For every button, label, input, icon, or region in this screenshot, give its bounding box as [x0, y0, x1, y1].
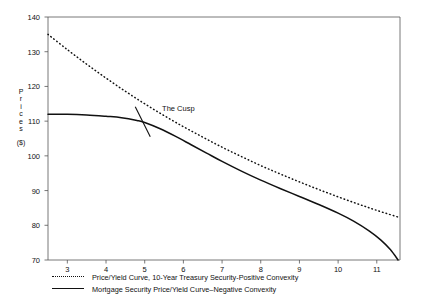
legend-item-treasury: Price/Yield Curve, 10-Year Treasury Secu…	[48, 271, 408, 283]
y-tick-label: 100	[14, 152, 40, 161]
series-line-treasury	[48, 34, 400, 217]
solid-line-key	[48, 284, 88, 294]
y-tick-label: 110	[14, 117, 40, 126]
y-tick-label: 130	[14, 48, 40, 57]
legend-label-treasury: Price/Yield Curve, 10-Year Treasury Secu…	[88, 273, 298, 282]
y-tick-label: 90	[14, 187, 40, 196]
cusp-marker-tick	[135, 107, 150, 137]
y-tick-label: 80	[14, 221, 40, 230]
dotted-line-key	[48, 272, 88, 282]
plot-canvas	[0, 0, 421, 305]
y-tick-label: 140	[14, 13, 40, 22]
legend-item-mortgage: Mortgage Security Price/Yield Curve–Nega…	[48, 283, 408, 295]
series-line-mortgage	[48, 114, 398, 260]
y-tick-label: 120	[14, 82, 40, 91]
y-tick-label: 70	[14, 256, 40, 265]
price-yield-convexity-chart: P r i c e s ($) 708090100110120130140 34…	[0, 0, 421, 305]
legend-label-mortgage: Mortgage Security Price/Yield Curve–Nega…	[88, 285, 276, 294]
chart-legend: Price/Yield Curve, 10-Year Treasury Secu…	[48, 271, 408, 295]
cusp-annotation-label: The Cusp	[162, 104, 195, 113]
